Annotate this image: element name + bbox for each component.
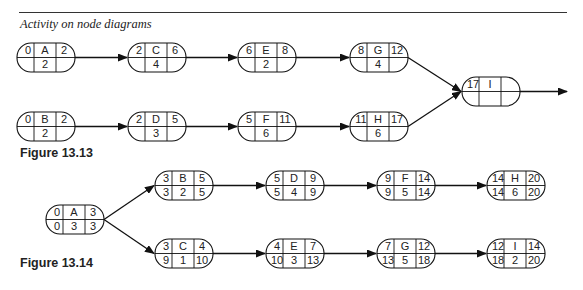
activity-on-node-diagram: 0A222C646E828G1240B222D535F11611H17617I0…: [0, 0, 583, 290]
node-f-ef: 14: [418, 172, 430, 184]
node-f-ef: 11: [279, 113, 290, 125]
arrow-a-b: [104, 186, 154, 220]
node-b-id: B: [41, 113, 48, 125]
node-a: 0A3033: [46, 205, 104, 234]
node-f-ls: 9: [385, 186, 391, 198]
node-i-es: 17: [467, 78, 479, 90]
node-e-ef: 7: [310, 240, 316, 252]
node-a-id: A: [70, 206, 78, 218]
node-i-id: I: [488, 78, 491, 90]
node-d-es: 5: [274, 172, 280, 184]
node-h-lf: 20: [528, 186, 540, 198]
node-h-dur: 6: [375, 127, 381, 139]
node-a-id: A: [41, 44, 49, 56]
arrow-g-i: [408, 58, 461, 92]
node-i-es: 12: [492, 240, 504, 252]
node-g: 8G124: [350, 43, 408, 72]
node-b: 3B5325: [155, 171, 213, 200]
node-d-dur: 3: [153, 127, 159, 139]
node-d-id: D: [290, 172, 298, 184]
node-b-ls: 3: [163, 186, 169, 198]
node-c-id: C: [179, 240, 187, 252]
node-e: 4E710313: [266, 239, 324, 268]
node-c-lf: 10: [196, 254, 208, 266]
node-e-es: 4: [274, 240, 280, 252]
node-d: 5D9549: [266, 171, 324, 200]
node-g-ls: 13: [382, 254, 394, 266]
node-h-id: H: [511, 172, 519, 184]
node-g-es: 7: [385, 240, 391, 252]
node-i-id: I: [513, 240, 516, 252]
node-d-es: 2: [136, 113, 142, 125]
node-b-dur: 2: [42, 127, 48, 139]
node-a-es: 0: [25, 44, 31, 56]
node-e-dur: 3: [291, 254, 297, 266]
node-e-ls: 10: [271, 254, 283, 266]
node-d-ef: 5: [172, 113, 178, 125]
node-f-es: 5: [246, 113, 252, 125]
node-f-lf: 14: [418, 186, 430, 198]
node-e-es: 6: [246, 44, 252, 56]
node-e-id: E: [290, 240, 297, 252]
node-c: 2C64: [128, 43, 186, 72]
node-f-id: F: [263, 113, 270, 125]
node-a: 0A22: [17, 43, 75, 72]
arrow-h-i: [408, 92, 461, 127]
node-i-ls: 18: [492, 254, 504, 266]
node-e: 6E82: [238, 43, 296, 72]
node-g: 7G1213518: [377, 239, 435, 268]
node-b-es: 0: [25, 113, 31, 125]
node-h: 11H176: [350, 112, 408, 141]
node-i-dur: 2: [512, 254, 518, 266]
node-i-ef: 14: [528, 240, 540, 252]
node-a-dur: 2: [42, 58, 48, 70]
node-f: 9F149514: [377, 171, 435, 200]
node-b-dur: 2: [180, 186, 186, 198]
node-i: 17I: [462, 77, 520, 106]
node-g-ef: 12: [391, 44, 403, 56]
node-c-dur: 1: [180, 254, 186, 266]
node-g-es: 8: [358, 44, 364, 56]
node-a-es: 0: [54, 206, 60, 218]
node-h-ef: 17: [391, 113, 403, 125]
node-h-ls: 14: [492, 186, 504, 198]
node-f-dur: 6: [263, 127, 269, 139]
node-d: 2D53: [128, 112, 186, 141]
node-g-ef: 12: [418, 240, 430, 252]
node-a-ls: 0: [54, 220, 60, 232]
node-d-ef: 9: [310, 172, 316, 184]
node-d-dur: 4: [291, 186, 297, 198]
node-b-id: B: [179, 172, 186, 184]
node-c-ls: 9: [163, 254, 169, 266]
node-c-id: C: [152, 44, 160, 56]
node-h: 14H2014620: [487, 171, 545, 200]
node-g-id: G: [401, 240, 410, 252]
arrow-a-c: [104, 220, 154, 254]
node-i-lf: 20: [528, 254, 540, 266]
node-d-lf: 9: [310, 186, 316, 198]
node-h-id: H: [374, 113, 382, 125]
node-b: 0B22: [17, 112, 75, 141]
node-g-id: G: [374, 44, 383, 56]
node-c-es: 3: [163, 240, 169, 252]
node-b-lf: 5: [199, 186, 205, 198]
node-a-dur: 3: [71, 220, 77, 232]
node-c: 3C49110: [155, 239, 213, 268]
node-e-lf: 13: [307, 254, 319, 266]
node-b-ef: 5: [199, 172, 205, 184]
node-e-ef: 8: [282, 44, 288, 56]
node-b-ef: 2: [61, 113, 67, 125]
node-h-dur: 6: [512, 186, 518, 198]
node-d-id: D: [152, 113, 160, 125]
node-e-dur: 2: [263, 58, 269, 70]
node-h-es: 14: [492, 172, 504, 184]
node-a-ef: 2: [61, 44, 67, 56]
node-e-id: E: [262, 44, 269, 56]
node-b-es: 3: [163, 172, 169, 184]
node-g-lf: 18: [418, 254, 430, 266]
node-f-id: F: [402, 172, 409, 184]
node-g-dur: 5: [402, 254, 408, 266]
node-c-dur: 4: [153, 58, 159, 70]
node-a-ef: 3: [90, 206, 96, 218]
node-h-es: 11: [355, 113, 366, 125]
